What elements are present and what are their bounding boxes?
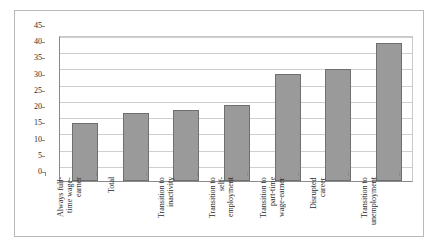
bar [224,105,250,181]
gridline [60,53,412,54]
y-axis-tick-mark [41,26,45,27]
x-axis-tick-mark [146,172,147,176]
y-axis-tick-mark [41,42,45,43]
gridline [60,102,412,103]
x-axis-category-label: Always full- time wage- earner [56,177,83,237]
x-axis-category-label: Disrupted career [309,177,327,237]
bar [173,110,199,181]
x-axis-category-label: Transition to inactivity [157,177,175,237]
y-axis-tick-label: 15 [16,119,42,127]
y-axis-tick-mark [41,123,45,124]
y-axis-tick-mark [41,91,45,92]
gridline [60,69,412,70]
gridline [60,86,412,87]
chart-outer-frame: 454035302520151050 Always full- time wag… [14,10,424,237]
y-axis-tick-label: 35 [16,54,42,62]
y-axis-tick-mark [41,140,45,141]
y-axis-tick-label: 20 [16,103,42,111]
y-axis-tick-mark [41,107,45,108]
y-axis-tick-label: 25 [16,87,42,95]
x-axis-tick-mark [298,172,299,176]
y-axis-tick-mark [41,156,45,157]
x-axis-tick-mark [197,172,198,176]
bar [123,113,149,181]
y-axis-tick-label: 40 [16,38,42,46]
x-axis-tick-mark [399,172,400,176]
y-axis-tick-mark [41,58,45,59]
x-axis-category-label: Transition to part-time wage-earner [259,177,286,237]
x-axis-category-label: Transition to unemployment [360,177,378,237]
bar [275,74,301,181]
plot-area [59,36,413,182]
y-axis-tick-label: 10 [16,136,42,144]
y-axis-tick-label: 45 [16,22,42,30]
bar [376,43,402,181]
x-axis-category-label: Total [107,177,116,237]
y-axis-tick-label: 5 [16,152,42,160]
bar [72,123,98,181]
x-axis-tick-mark [247,172,248,176]
x-axis-category-label: Transition to self- employment [208,177,235,237]
y-axis-tick-label: 30 [16,71,42,79]
x-axis-tick-mark [348,172,349,176]
x-axis-tick-mark [96,172,97,176]
bar-chart-figure: 454035302520151050 Always full- time wag… [0,0,439,247]
x-axis-tick-mark [45,172,46,176]
y-axis-tick-label: 0 [16,168,42,176]
bar [325,69,351,181]
y-axis-tick-mark [41,75,45,76]
gridline [60,37,412,38]
